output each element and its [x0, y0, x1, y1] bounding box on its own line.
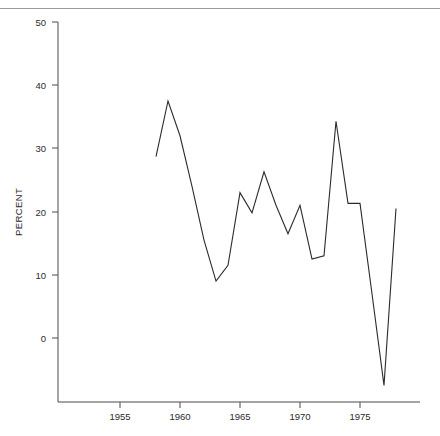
y-tick-label: 30	[35, 143, 46, 154]
y-axis-tick-labels: 50 40 30 20 10 0	[35, 17, 46, 344]
y-tick-label: 50	[35, 17, 46, 28]
chart-svg: 50 40 30 20 10 0 PERCENT 1955 1960 1965 …	[0, 0, 440, 436]
x-axis-ticks	[120, 402, 360, 408]
y-axis-title: PERCENT	[13, 188, 24, 236]
x-tick-label: 1975	[349, 411, 370, 422]
data-series-line	[156, 101, 396, 385]
x-tick-label: 1965	[229, 411, 250, 422]
x-tick-label: 1955	[109, 411, 130, 422]
y-axis-ticks	[52, 22, 58, 338]
y-tick-label: 20	[35, 207, 46, 218]
x-tick-label: 1970	[289, 411, 310, 422]
y-tick-label: 10	[35, 270, 46, 281]
x-axis-tick-labels: 1955 1960 1965 1970 1975	[109, 411, 370, 422]
chart-figure: 50 40 30 20 10 0 PERCENT 1955 1960 1965 …	[0, 0, 440, 436]
y-tick-label: 0	[41, 333, 46, 344]
x-tick-label: 1960	[169, 411, 190, 422]
y-tick-label: 40	[35, 80, 46, 91]
